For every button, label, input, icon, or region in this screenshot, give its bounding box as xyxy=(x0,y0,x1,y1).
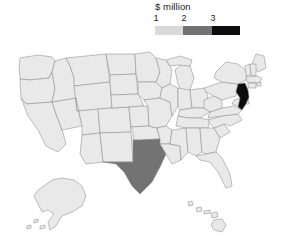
state-south-dakota[interactable] xyxy=(110,74,138,95)
legend-tick-1: 1 xyxy=(149,13,163,23)
us-map-svg xyxy=(0,34,290,250)
alaska-island-3 xyxy=(27,225,31,229)
state-connecticut[interactable] xyxy=(248,83,256,88)
state-kentucky[interactable] xyxy=(178,108,210,118)
legend: $ million 1 2 3 xyxy=(150,1,248,37)
state-massachusetts[interactable] xyxy=(246,76,262,83)
alaska-island-1 xyxy=(34,219,38,223)
hawaii-maui xyxy=(211,212,218,218)
state-pennsylvania[interactable] xyxy=(204,82,238,100)
legend-tick-3: 3 xyxy=(206,13,220,23)
legend-title: $ million xyxy=(155,1,191,12)
state-wyoming[interactable] xyxy=(74,82,112,111)
state-rhode-island[interactable] xyxy=(257,82,261,86)
state-new-hampshire[interactable] xyxy=(250,64,256,76)
state-new-york[interactable] xyxy=(214,62,248,84)
state-arizona[interactable] xyxy=(80,133,103,164)
hawaii-kauai xyxy=(188,201,193,206)
state-colorado[interactable] xyxy=(98,107,131,133)
state-michigan-up[interactable] xyxy=(166,56,192,66)
hawaii-molokai xyxy=(204,210,210,214)
state-nebraska[interactable] xyxy=(111,94,144,108)
legend-tick-2: 2 xyxy=(177,13,191,23)
state-oklahoma[interactable] xyxy=(131,126,160,140)
state-alaska[interactable] xyxy=(34,178,86,230)
state-alabama[interactable] xyxy=(186,128,202,156)
state-new-mexico[interactable] xyxy=(100,132,133,162)
state-tennessee[interactable] xyxy=(176,116,210,128)
hawaii-oahu xyxy=(196,207,202,212)
state-north-dakota[interactable] xyxy=(106,54,136,75)
choropleth-figure: $ million 1 2 3 xyxy=(0,0,290,250)
alaska-island-2 xyxy=(40,225,45,229)
state-minnesota[interactable] xyxy=(135,52,160,82)
us-map xyxy=(0,34,290,250)
state-kansas[interactable] xyxy=(129,106,149,127)
hawaii-bigisland[interactable] xyxy=(211,219,226,232)
state-florida[interactable] xyxy=(196,152,232,188)
